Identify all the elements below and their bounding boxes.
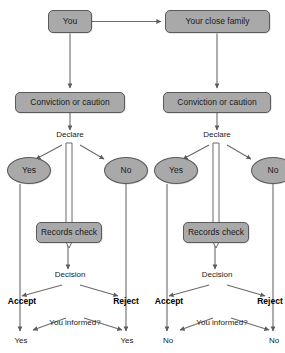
label-left-informed-reject-answer: Yes [110,336,144,345]
label-right-you-informed: You informed? [183,318,261,327]
node-your-close-family[interactable]: Your close family [165,10,270,33]
connector-right-declare-to-no [227,145,251,159]
label-right-decision: Decision [197,270,237,279]
node-left-records-check[interactable]: Records check [36,222,102,243]
label-left-declare: Declare [50,130,90,139]
label-left-accept: Accept [0,296,44,306]
connector-left-decision-to-accept [22,285,62,296]
node-right-declare-yes[interactable]: Yes [154,157,198,184]
connector-left-declare-to-yes [36,145,62,159]
connector-right-declare-to-yes [183,145,209,159]
node-left-conviction-or-caution[interactable]: Conviction or caution [15,92,125,113]
label-right-informed-accept-answer: No [151,336,185,345]
node-right-records-check[interactable]: Records check [183,222,249,243]
connector-right-decision-to-reject [227,285,265,296]
connector-left-declare-to-no [80,145,104,159]
label-left-you-informed: You informed? [36,318,114,327]
node-left-declare-no[interactable]: No [104,157,148,184]
label-left-reject: Reject [104,296,148,306]
node-left-declare-yes[interactable]: Yes [7,157,51,184]
connector-left-decision-to-reject [80,285,118,296]
node-you[interactable]: You [48,10,92,33]
label-right-accept: Accept [147,296,191,306]
label-left-informed-accept-answer: Yes [4,336,38,345]
flowchart-canvas: You Conviction or caution Declare Yes No… [0,0,285,353]
label-right-reject: Reject [248,296,285,306]
connector-right-decision-to-accept [169,285,209,296]
label-right-informed-reject-answer: No [257,336,285,345]
node-right-conviction-or-caution[interactable]: Conviction or caution [163,92,271,113]
label-left-decision: Decision [50,270,90,279]
label-right-declare: Declare [197,130,237,139]
